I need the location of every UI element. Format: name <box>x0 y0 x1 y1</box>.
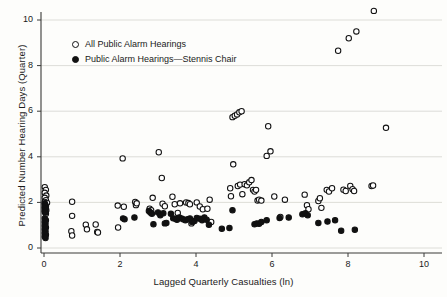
chart-legend: All Public Alarm Hearings Public Alarm H… <box>72 38 237 65</box>
x-tick-label-8: 8 <box>328 259 368 269</box>
data-point-open <box>264 153 269 158</box>
scatter-plot-figure: Predicted Number Hearing Days (Quarter) … <box>0 0 447 297</box>
legend-item-stennis-chair: Public Alarm Hearings—Stennis Chair <box>72 53 237 65</box>
x-tick-label-2: 2 <box>100 259 140 269</box>
data-point-filled <box>227 225 232 230</box>
data-point-open <box>207 197 212 202</box>
data-point-open <box>177 201 182 206</box>
data-point-filled <box>305 212 310 217</box>
y-tick-label-0: 0 <box>3 242 33 252</box>
data-point-open <box>272 194 277 199</box>
data-point-filled <box>259 219 264 224</box>
data-point-open <box>282 197 287 202</box>
data-point-open <box>249 177 254 182</box>
data-point-filled <box>122 217 127 222</box>
data-point-filled <box>264 217 269 222</box>
data-point-filled <box>352 227 357 232</box>
data-point-open <box>351 188 356 193</box>
y-tick-label-2: 2 <box>3 196 33 206</box>
data-point-open <box>335 48 340 53</box>
data-point-open <box>268 149 273 154</box>
data-point-open <box>159 175 164 180</box>
data-point-open <box>228 194 233 199</box>
data-point-open <box>346 36 351 41</box>
y-tick-label-8: 8 <box>3 60 33 70</box>
x-axis-title: Lagged Quarterly Casualties (ln) <box>0 276 447 287</box>
data-point-open <box>240 191 245 196</box>
filled-circle-marker-icon <box>72 56 79 63</box>
data-point-open <box>172 202 177 207</box>
data-point-filled <box>219 226 224 231</box>
data-point-open <box>95 230 100 235</box>
data-point-open <box>115 225 120 230</box>
y-axis-title: Predicted Number Hearing Days (Quarter) <box>16 11 27 261</box>
data-point-filled <box>161 211 166 216</box>
data-point-open <box>239 109 244 114</box>
data-point-open <box>69 199 74 204</box>
data-point-open <box>69 233 74 238</box>
data-point-open <box>120 156 125 161</box>
data-point-open <box>319 205 324 210</box>
data-point-open <box>121 204 126 209</box>
data-point-open <box>115 203 120 208</box>
data-point-filled <box>338 228 343 233</box>
y-tick-label-6: 6 <box>3 105 33 115</box>
data-point-filled <box>43 210 48 215</box>
data-point-filled <box>230 207 235 212</box>
data-point-filled <box>164 220 169 225</box>
legend-label: Public Alarm Hearings—Stennis Chair <box>85 54 237 64</box>
data-point-open <box>156 150 161 155</box>
data-point-filled <box>286 215 291 220</box>
data-point-open <box>383 125 388 130</box>
data-point-filled <box>149 211 154 216</box>
data-point-filled <box>332 217 337 222</box>
x-tick-label-0: 0 <box>24 259 64 269</box>
x-tick-label-4: 4 <box>176 259 216 269</box>
y-tick-label-10: 10 <box>3 14 33 24</box>
data-point-filled <box>277 215 282 220</box>
data-point-open <box>302 192 307 197</box>
data-point-filled <box>316 220 321 225</box>
data-point-open <box>150 195 155 200</box>
data-point-filled <box>325 219 330 224</box>
data-point-open <box>134 201 139 206</box>
data-point-open <box>266 124 271 129</box>
data-point-open <box>253 187 258 192</box>
data-point-open <box>228 186 233 191</box>
data-point-open <box>93 222 98 227</box>
data-point-open <box>84 227 89 232</box>
legend-item-all-public-alarm-hearings: All Public Alarm Hearings <box>72 38 237 50</box>
data-point-open <box>205 206 210 211</box>
x-tick-label-6: 6 <box>252 259 292 269</box>
data-point-open <box>162 204 167 209</box>
data-point-open <box>170 194 175 199</box>
data-point-open <box>370 183 375 188</box>
data-point-open <box>371 8 376 13</box>
data-point-filled <box>132 215 137 220</box>
x-tick-label-10: 10 <box>404 259 444 269</box>
data-point-open <box>354 29 359 34</box>
data-point-filled <box>43 235 48 240</box>
y-tick-label-4: 4 <box>3 151 33 161</box>
data-point-open <box>329 186 334 191</box>
data-point-open <box>317 196 322 201</box>
data-point-open <box>69 213 74 218</box>
data-point-open <box>343 188 348 193</box>
legend-label: All Public Alarm Hearings <box>85 39 186 49</box>
data-point-filled <box>206 222 211 227</box>
open-circle-marker-icon <box>72 41 79 48</box>
data-point-open <box>187 202 192 207</box>
data-point-open <box>259 198 264 203</box>
data-point-open <box>231 162 236 167</box>
data-point-filled <box>151 222 156 227</box>
